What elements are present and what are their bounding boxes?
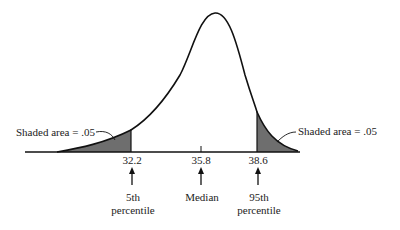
- caption-median: Median: [185, 191, 219, 204]
- caption-p95: 95th percentile: [237, 191, 280, 217]
- right-shade-label: Shaded area = .05: [298, 125, 377, 137]
- caption-p5: 5th percentile: [111, 191, 154, 217]
- tick-label-p95: 38.6: [248, 154, 267, 167]
- caption-p95-line1: 95th: [237, 191, 280, 204]
- arrow-icon-p5: [129, 167, 135, 185]
- caption-p5-line2: percentile: [111, 204, 154, 217]
- caption-p5-line1: 5th: [111, 191, 154, 204]
- tick-label-median: 35.8: [191, 154, 210, 167]
- caption-p95-line2: percentile: [237, 204, 280, 217]
- right-tail-shade: [257, 112, 298, 152]
- arrow-icon-median: [198, 167, 204, 185]
- right-leader-line: [277, 132, 296, 142]
- left-shade-label: Shaded area = .05: [16, 126, 95, 138]
- tick-label-p5: 32.2: [122, 154, 141, 167]
- caption-median-line1: Median: [185, 191, 219, 204]
- arrow-icon-p95: [255, 167, 261, 185]
